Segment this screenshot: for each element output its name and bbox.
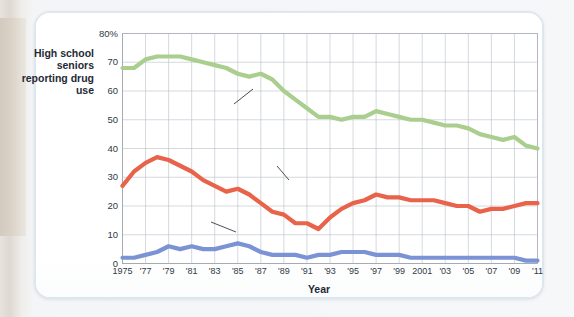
y-tick-label: 50	[84, 114, 118, 125]
series-label-alcohol: Alcohol	[190, 103, 221, 114]
x-axis-title: Year	[289, 283, 349, 295]
series-label-cocaine: Cocaine	[198, 215, 233, 226]
y-tick-label: 40	[84, 143, 118, 154]
x-tick-label: '11	[521, 266, 555, 276]
figure-card	[34, 11, 544, 299]
y-tick-label: 70	[84, 56, 118, 67]
y-tick-label: 60	[84, 85, 118, 96]
y-tick-label: 10	[84, 229, 118, 240]
y-axis-title: High school seniors reporting drug use	[18, 47, 94, 97]
y-tick-label: 80%	[84, 28, 118, 39]
series-label-line-2: hashish	[216, 169, 260, 180]
y-tick-label: 20	[84, 200, 118, 211]
series-label-line-1: Marijuana/	[216, 158, 260, 169]
y-tick-label: 30	[84, 171, 118, 182]
series-label-marijuana-hashish: Marijuana/hashish	[216, 158, 260, 179]
